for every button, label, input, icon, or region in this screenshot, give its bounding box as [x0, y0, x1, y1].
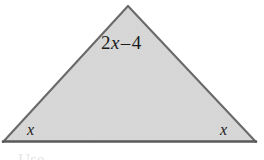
clipped-caption-row: Use: [0, 150, 264, 160]
clipped-caption-text: Use: [18, 150, 44, 160]
top-side-coefficient: 2: [101, 32, 111, 53]
top-side-constant: 4: [132, 32, 142, 53]
top-side-operator: –: [120, 32, 132, 53]
bottom-right-angle-label: x: [220, 122, 227, 138]
triangle-paper-grain: [3, 6, 256, 142]
top-side-variable: x: [111, 32, 120, 53]
top-side-label: 2x–4: [101, 33, 142, 52]
triangle-figure: 2x–4 x x Use: [0, 0, 264, 160]
bottom-left-angle-label: x: [27, 122, 34, 138]
